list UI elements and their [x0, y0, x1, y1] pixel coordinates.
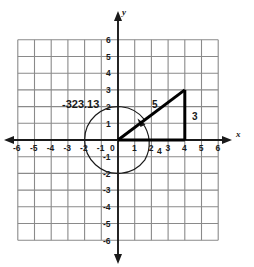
y-tick-4: 4 — [106, 68, 111, 78]
x-tick--6: -6 — [13, 143, 21, 153]
axis-lines — [10, 18, 226, 258]
y-axis-arrow-down — [114, 254, 122, 264]
coordinate-plane-svg: x y -6 -5 -4 -3 -2 -1 0 1 2 3 4 5 6 4 6 … — [0, 0, 254, 267]
y-axis-label: y — [121, 7, 127, 17]
stray-digit-mark: 4 — [157, 146, 162, 156]
y-tick--6: -6 — [103, 236, 111, 246]
hypotenuse-length-label: 5 — [152, 99, 158, 110]
x-tick--4: -4 — [47, 143, 55, 153]
y-axis-arrow-up — [114, 11, 122, 21]
coordinate-plane-figure: x y -6 -5 -4 -3 -2 -1 0 1 2 3 4 5 6 4 6 … — [0, 0, 254, 267]
x-tick--5: -5 — [30, 143, 38, 153]
vertical-leg-length-label: 3 — [192, 111, 198, 122]
x-tick-3: 3 — [165, 143, 170, 153]
x-tick-4: 4 — [182, 143, 187, 153]
y-tick--4: -4 — [103, 202, 111, 212]
x-tick-5: 5 — [199, 143, 204, 153]
y-tick--3: -3 — [103, 185, 111, 195]
x-tick-6: 6 — [216, 143, 221, 153]
y-tick-1: 1 — [106, 119, 111, 129]
y-tick--1: -1 — [103, 152, 111, 162]
y-tick--5: -5 — [103, 219, 111, 229]
x-tick--3: -3 — [63, 143, 71, 153]
x-tick-1: 1 — [132, 143, 137, 153]
x-axis-arrow-right — [222, 136, 232, 144]
y-tick-6: 6 — [106, 35, 111, 45]
x-axis-label: x — [235, 129, 241, 139]
angle-measure-label: -323.13 — [62, 98, 99, 110]
y-tick-5: 5 — [106, 52, 111, 62]
y-tick-3: 3 — [106, 85, 111, 95]
origin-label: 0 — [110, 143, 115, 153]
